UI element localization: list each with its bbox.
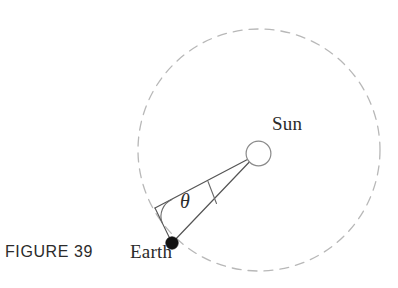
- figure-39-diagram: Sun Earth θ FIGURE 39: [0, 0, 398, 288]
- figure-caption: FIGURE 39: [5, 243, 93, 261]
- theta-angle-label: θ: [180, 190, 190, 213]
- sun-circle: [246, 141, 271, 166]
- angle-arc: [161, 200, 172, 223]
- sun-label: Sun: [272, 113, 302, 135]
- earth-label: Earth: [130, 241, 172, 263]
